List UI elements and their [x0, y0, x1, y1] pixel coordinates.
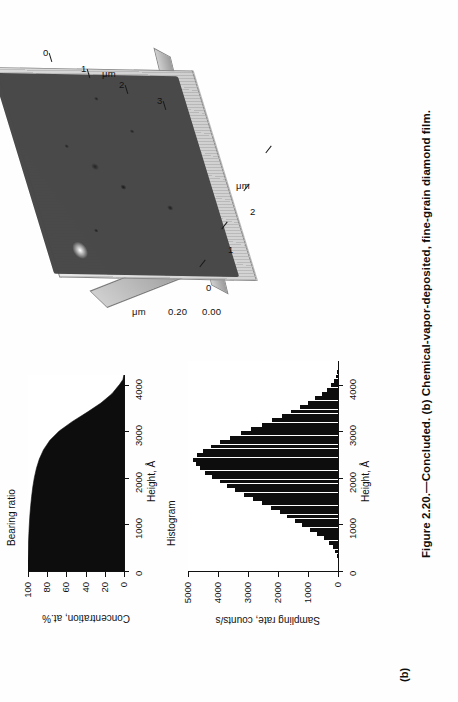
- afm-z-tick-label-1: 0.20: [168, 306, 187, 317]
- histogram-y-tick-2000: [278, 572, 279, 577]
- bearing-x-label-4000: 4000: [133, 379, 144, 400]
- bearing-x-tick-1000: [124, 524, 129, 525]
- histogram-y-axis-title: Sampling rate, counts/s: [216, 615, 321, 626]
- bearing-ratio-title: Bearing ratio: [6, 489, 17, 546]
- bearing-y-label-0: 0: [118, 582, 129, 612]
- histogram-bar: [337, 370, 338, 374]
- histogram-y-tick-1000: [308, 572, 309, 577]
- bearing-y-tick-40: [86, 572, 87, 577]
- afm-x-tick-label-0: 0: [43, 47, 48, 58]
- bearing-y-tick-80: [47, 572, 48, 577]
- histogram-bar: [324, 536, 338, 540]
- histogram-bar: [322, 392, 338, 396]
- histogram-bar: [335, 550, 338, 554]
- bearing-x-tick-3000: [124, 431, 129, 432]
- histogram-bar: [253, 497, 339, 501]
- histogram-x-tick-2000: [338, 478, 343, 479]
- histogram-y-label-5000: 5000: [182, 582, 193, 616]
- figure-stage: 0 1 2 3 μm 0 1 2 μm 0.00 0.20 μm Histogr…: [0, 0, 458, 702]
- histogram-x-label-1000: 1000: [347, 518, 358, 539]
- histogram-bar: [302, 523, 338, 527]
- bearing-ratio-plot-area: [28, 375, 125, 572]
- chart-histogram: Histogram 0 1000 2000 3000 4000 Height, …: [168, 342, 378, 642]
- bearing-y-tick-0: [124, 572, 125, 577]
- histogram-bar: [317, 532, 338, 536]
- histogram-y-label-0: 0: [332, 582, 343, 616]
- histogram-bar: [291, 410, 338, 414]
- afm-grain-texture: [0, 73, 239, 277]
- bearing-y-tick-100: [28, 572, 29, 577]
- histogram-bar: [200, 466, 338, 470]
- histogram-bar: [220, 440, 339, 444]
- histogram-bar: [287, 515, 338, 519]
- histogram-y-tick-4000: [218, 572, 219, 577]
- bearing-x-tick-2000: [124, 478, 129, 479]
- figure-page: 0 1 2 3 μm 0 1 2 μm 0.00 0.20 μm Histogr…: [0, 0, 458, 702]
- histogram-y-tick-0: [338, 572, 339, 577]
- figure-caption: Figure 2.20.—Concluded. (b) Chemical-vap…: [420, 24, 432, 644]
- histogram-bar: [310, 528, 339, 532]
- afm-y-axis-unit: μm: [236, 180, 250, 191]
- afm-z-axis-unit: μm: [132, 306, 146, 317]
- afm-x-tick-label-1: 1: [81, 63, 86, 74]
- bearing-y-label-40: 40: [80, 582, 91, 612]
- histogram-bar: [262, 501, 339, 505]
- bearing-x-axis-title: Height, Å: [146, 461, 157, 502]
- bearing-y-tick-60: [66, 572, 67, 577]
- histogram-bar: [333, 545, 338, 549]
- histogram-bar: [205, 471, 338, 475]
- chart-bearing-ratio: Bearing ratio 0 1000 2000 3000 4000 Heig…: [8, 342, 168, 642]
- histogram-bar: [295, 519, 339, 523]
- bearing-y-label-80: 80: [41, 582, 52, 612]
- histogram-bar: [262, 423, 339, 427]
- histogram-bar: [334, 379, 338, 383]
- histogram-plot-area: [188, 361, 339, 572]
- histogram-bar: [251, 427, 338, 431]
- histogram-x-tick-3000: [338, 431, 343, 432]
- afm-z-tick-label-0: 0.00: [202, 306, 221, 317]
- histogram-y-tick-3000: [248, 572, 249, 577]
- bearing-y-label-20: 20: [99, 582, 110, 612]
- histogram-bar: [230, 436, 338, 440]
- histogram-bar: [203, 449, 338, 453]
- histogram-bar: [211, 445, 339, 449]
- histogram-bar: [193, 458, 338, 462]
- afm-y-tick-label-0: 0: [206, 282, 211, 293]
- histogram-x-label-0: 0: [347, 571, 358, 576]
- histogram-bars: [188, 361, 338, 571]
- histogram-x-tick-1000: [338, 524, 343, 525]
- histogram-x-label-4000: 4000: [347, 379, 358, 400]
- histogram-bar: [315, 396, 338, 400]
- histogram-bar: [197, 453, 338, 457]
- histogram-x-label-2000: 2000: [347, 472, 358, 493]
- histogram-bar: [196, 462, 339, 466]
- histogram-y-label-1000: 1000: [302, 582, 313, 616]
- histogram-bar: [308, 401, 338, 405]
- histogram-y-label-2000: 2000: [272, 582, 283, 616]
- histogram-bar: [272, 418, 338, 422]
- histogram-y-label-4000: 4000: [212, 582, 223, 616]
- bearing-ratio-area: [28, 375, 124, 571]
- histogram-bar: [212, 475, 338, 479]
- afm-x-tick-0: [49, 53, 53, 62]
- histogram-bar: [244, 493, 339, 497]
- bearing-y-label-60: 60: [60, 582, 71, 612]
- histogram-x-label-3000: 3000: [347, 425, 358, 446]
- histogram-bar: [220, 480, 339, 484]
- afm-x-axis-unit: μm: [102, 68, 116, 79]
- histogram-y-tick-5000: [188, 572, 189, 577]
- bearing-x-label-0: 0: [133, 571, 144, 576]
- bearing-x-tick-4000: [124, 385, 129, 386]
- bearing-y-label-100: 100: [22, 582, 33, 612]
- histogram-bar: [337, 554, 338, 558]
- histogram-bar: [241, 431, 339, 435]
- bearing-x-label-2000: 2000: [133, 472, 144, 493]
- bearing-y-axis-title: Concentration, at.%: [42, 613, 130, 624]
- histogram-bar: [227, 484, 338, 488]
- histogram-bar: [282, 414, 338, 418]
- histogram-bar: [329, 541, 338, 545]
- afm-x-tick-label-2: 2: [119, 79, 124, 90]
- afm-y-tick-3: [265, 146, 271, 154]
- histogram-bar: [300, 405, 338, 409]
- histogram-bar: [331, 383, 338, 387]
